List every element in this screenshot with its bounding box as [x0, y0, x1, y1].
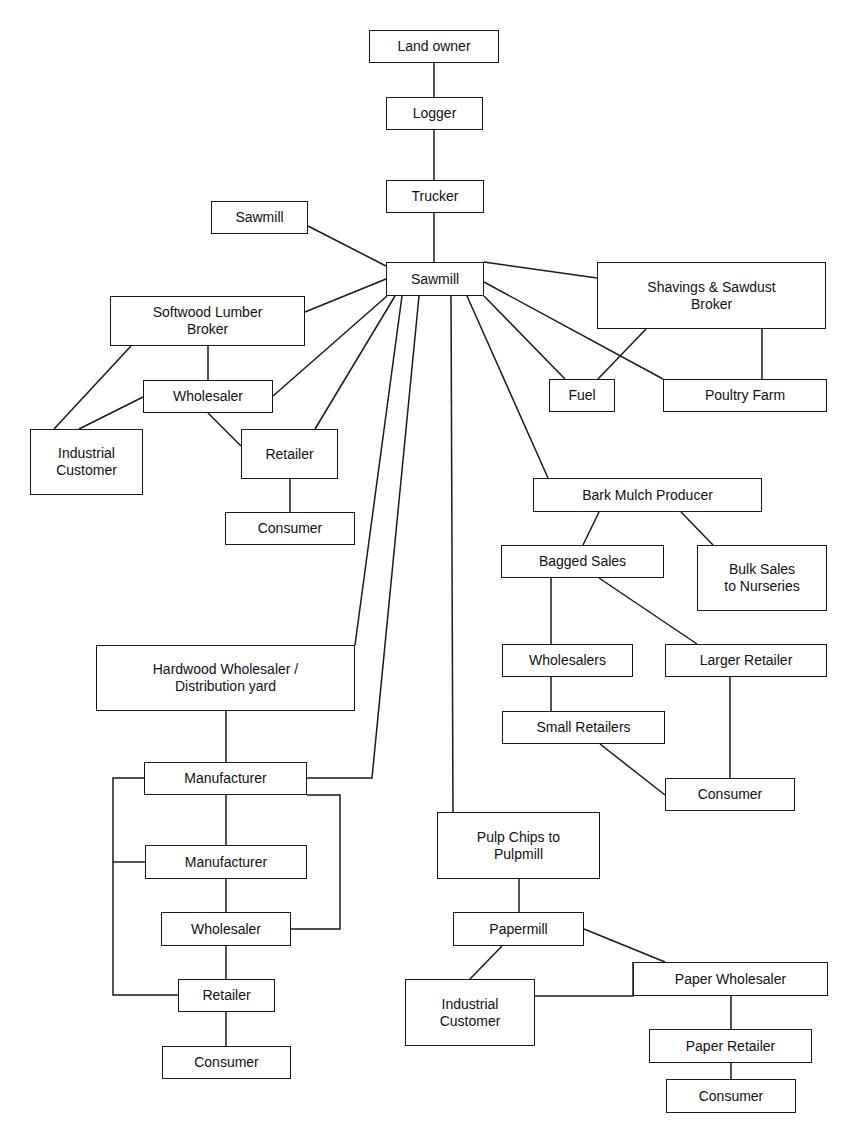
edge-sawmill-to-softwood-retailer — [315, 296, 395, 429]
edge-hw-manufacturer-1-to-hw-retailer — [113, 778, 178, 995]
node-softwood-industrial: Industrial Customer — [30, 429, 143, 495]
node-label: Fuel — [568, 387, 595, 404]
edge-small-retailers-to-mulch-consumer — [600, 744, 665, 795]
node-label: Hardwood Wholesaler / Distribution yard — [153, 661, 299, 695]
node-label: Industrial Customer — [56, 445, 117, 479]
node-hw-retailer: Retailer — [178, 979, 275, 1012]
node-shavings-broker: Shavings & Sawdust Broker — [597, 262, 826, 329]
node-softwood-consumer: Consumer — [225, 512, 355, 545]
node-land-owner: Land owner — [369, 30, 499, 63]
node-bulk-sales: Bulk Sales to Nurseries — [697, 545, 827, 611]
node-label: Small Retailers — [536, 719, 630, 736]
node-label: Shavings & Sawdust Broker — [647, 279, 775, 313]
node-hw-manufacturer-1: Manufacturer — [144, 762, 307, 795]
node-label: Bulk Sales to Nurseries — [724, 561, 799, 595]
edge-sawmill-to-hardwood-wholesaler — [355, 296, 402, 645]
node-sawmill-side: Sawmill — [211, 201, 308, 234]
edge-bark-mulch-to-bulk-sales — [681, 512, 713, 545]
node-fuel: Fuel — [549, 379, 615, 412]
node-trucker: Trucker — [386, 180, 484, 213]
node-label: Bagged Sales — [539, 553, 626, 570]
node-label: Larger Retailer — [700, 652, 793, 669]
edge-papermill-to-paper-wholesaler — [584, 929, 665, 962]
node-papermill: Papermill — [453, 912, 584, 946]
node-mulch-wholesalers: Wholesalers — [502, 644, 633, 677]
distribution-flowchart: Land ownerLoggerTruckerSawmillSawmillSof… — [0, 0, 859, 1127]
node-softwood-broker: Softwood Lumber Broker — [110, 296, 305, 346]
node-label: Poultry Farm — [705, 387, 785, 404]
node-paper-wholesaler: Paper Wholesaler — [633, 962, 828, 996]
node-label: Sawmill — [235, 209, 283, 226]
node-label: Manufacturer — [185, 854, 267, 871]
edge-sawmill-side-to-sawmill — [308, 226, 386, 266]
edge-sawmill-to-pulp-chips — [451, 296, 453, 812]
edge-shavings-broker-to-fuel — [598, 329, 646, 379]
node-label: Logger — [413, 105, 457, 122]
edge-sawmill-to-bark-mulch — [467, 296, 548, 478]
edge-bagged-sales-to-larger-retailer — [599, 578, 697, 644]
node-logger: Logger — [386, 97, 483, 130]
node-pulp-chips: Pulp Chips to Pulpmill — [437, 812, 600, 879]
node-hw-wholesaler: Wholesaler — [161, 912, 291, 946]
edge-bark-mulch-to-bagged-sales — [583, 512, 599, 545]
node-label: Softwood Lumber Broker — [153, 304, 263, 338]
node-label: Wholesalers — [529, 652, 606, 669]
node-label: Pulp Chips to Pulpmill — [477, 829, 560, 863]
edge-paper-industrial-to-paper-wholesaler — [535, 962, 633, 996]
node-label: Retailer — [202, 987, 250, 1004]
node-label: Land owner — [397, 38, 470, 55]
node-paper-retailer: Paper Retailer — [649, 1029, 812, 1063]
edge-sawmill-to-fuel — [484, 296, 565, 379]
node-label: Consumer — [194, 1054, 259, 1071]
node-small-retailers: Small Retailers — [502, 711, 665, 744]
node-hardwood-wholesaler: Hardwood Wholesaler / Distribution yard — [96, 645, 355, 711]
node-label: Wholesaler — [191, 921, 261, 938]
node-bagged-sales: Bagged Sales — [501, 545, 664, 578]
node-label: Trucker — [412, 188, 459, 205]
edge-softwood-wholesaler-to-softwood-retailer — [208, 413, 241, 446]
node-label: Manufacturer — [184, 770, 266, 787]
node-label: Paper Retailer — [686, 1038, 776, 1055]
node-label: Wholesaler — [173, 388, 243, 405]
node-label: Papermill — [489, 921, 547, 938]
node-hw-manufacturer-2: Manufacturer — [145, 845, 307, 879]
edge-softwood-wholesaler-to-softwood-industrial — [79, 397, 143, 429]
node-bark-mulch: Bark Mulch Producer — [533, 478, 762, 512]
node-sawmill: Sawmill — [386, 262, 484, 296]
node-label: Paper Wholesaler — [675, 971, 786, 988]
edge-sawmill-to-shavings-broker — [484, 262, 597, 278]
node-label: Consumer — [698, 786, 763, 803]
node-softwood-wholesaler: Wholesaler — [143, 380, 273, 413]
node-label: Sawmill — [411, 271, 459, 288]
edge-softwood-broker-to-softwood-industrial — [54, 346, 131, 429]
node-softwood-retailer: Retailer — [241, 429, 338, 479]
node-paper-industrial: Industrial Customer — [405, 979, 535, 1046]
node-label: Consumer — [699, 1088, 764, 1105]
edge-papermill-to-paper-industrial — [470, 946, 502, 979]
node-larger-retailer: Larger Retailer — [665, 644, 827, 677]
node-label: Retailer — [265, 446, 313, 463]
node-label: Bark Mulch Producer — [582, 487, 713, 504]
node-label: Industrial Customer — [440, 996, 501, 1030]
node-paper-consumer: Consumer — [666, 1079, 796, 1113]
node-mulch-consumer: Consumer — [665, 778, 795, 811]
node-poultry-farm: Poultry Farm — [663, 379, 827, 412]
node-hw-consumer: Consumer — [162, 1046, 291, 1079]
node-label: Consumer — [258, 520, 323, 537]
